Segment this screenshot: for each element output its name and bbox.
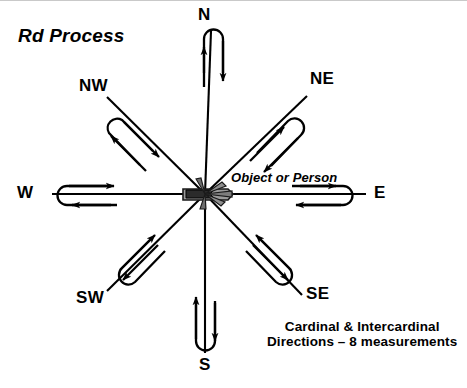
arrow-w <box>58 186 117 205</box>
direction-label-se: SE <box>306 284 329 303</box>
compass-directions-figure: Rd Process N NE E SE S SW W NW Object or… <box>0 0 467 388</box>
direction-label-sw: SW <box>76 288 104 307</box>
direction-label-ne: NE <box>310 69 334 88</box>
figure-caption: Cardinal & Intercardinal Directions – 8 … <box>267 319 457 349</box>
arrow-nw <box>108 119 159 171</box>
center-hub <box>183 178 233 209</box>
direction-label-nw: NW <box>79 76 108 95</box>
direction-label-e: E <box>374 183 386 202</box>
arrow-e <box>292 186 353 205</box>
direction-label-n: N <box>198 5 211 24</box>
direction-label-w: W <box>17 183 33 202</box>
caption-line-2: Directions – 8 measurements <box>267 334 457 349</box>
figure-title: Rd Process <box>18 25 125 46</box>
arrow-n <box>204 30 223 88</box>
center-object-label: Object or Person <box>231 171 337 186</box>
spoke-line-sw <box>107 194 205 291</box>
caption-line-1: Cardinal & Intercardinal <box>267 319 457 334</box>
direction-label-s: S <box>199 355 211 374</box>
spoke-line-n <box>205 31 211 194</box>
arrow-sw <box>119 235 165 285</box>
arrow-ne <box>250 118 304 172</box>
